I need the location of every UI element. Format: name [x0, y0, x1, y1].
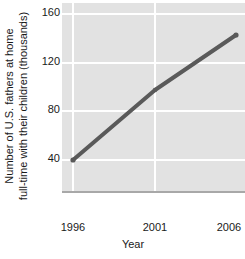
- chart-figure: 160 120 80 40 1996 2001 2006 Year Number…: [0, 0, 245, 259]
- series-polyline: [73, 35, 236, 160]
- x-tick-label-1996: 1996: [53, 221, 93, 233]
- x-tick-label-2006: 2006: [209, 221, 245, 233]
- data-point-2006: [233, 32, 238, 37]
- data-point-1996: [70, 157, 75, 162]
- y-axis-title-line-2: full-time with their children (thousands…: [16, 6, 30, 206]
- y-axis-title: Number of U.S. fathers at home full-time…: [2, 6, 30, 206]
- y-axis-title-line-1: Number of U.S. fathers at home: [2, 6, 16, 206]
- x-tick-label-2001: 2001: [135, 221, 175, 233]
- data-point-2001: [153, 88, 157, 92]
- x-axis-title: Year: [103, 238, 163, 250]
